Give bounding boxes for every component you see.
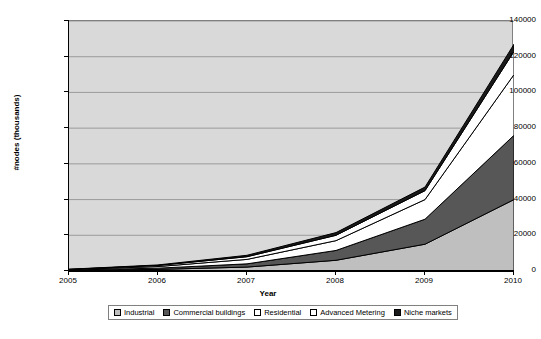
legend-label: Advanced Metering <box>320 308 385 317</box>
x-tick-mark <box>335 272 336 275</box>
y-tick-label: 140000 <box>474 16 536 24</box>
y-tick-mark <box>64 20 68 21</box>
y-tick-mark <box>64 91 68 92</box>
series-areas <box>69 44 514 271</box>
x-tick-label: 2010 <box>483 276 541 285</box>
legend-item[interactable]: Residential <box>254 308 301 317</box>
legend-swatch-icon <box>310 309 317 316</box>
plot-area <box>68 20 513 270</box>
x-axis-title: Year <box>0 289 536 298</box>
legend-item[interactable]: Commercial buildings <box>163 308 245 317</box>
y-tick-label: 60000 <box>474 159 536 167</box>
y-tick-mark <box>64 163 68 164</box>
x-tick-label: 2009 <box>394 276 454 285</box>
x-tick-mark <box>246 272 247 275</box>
legend-swatch-icon <box>114 309 121 316</box>
y-tick-label: 120000 <box>474 52 536 60</box>
y-axis-line <box>68 20 69 271</box>
y-tick-mark <box>64 127 68 128</box>
x-tick-mark <box>424 272 425 275</box>
chart-legend: IndustrialCommercial buildingsResidentia… <box>108 305 458 320</box>
y-tick-label: 100000 <box>474 87 536 95</box>
x-tick-mark <box>68 272 69 275</box>
legend-swatch-icon <box>254 309 261 316</box>
legend-item[interactable]: Niche markets <box>394 308 452 317</box>
y-tick-label: 40000 <box>474 195 536 203</box>
legend-swatch-icon <box>163 309 170 316</box>
y-tick-mark <box>64 234 68 235</box>
x-tick-label: 2005 <box>38 276 98 285</box>
legend-item[interactable]: Advanced Metering <box>310 308 385 317</box>
y-tick-label: 80000 <box>474 123 536 131</box>
y-tick-mark <box>64 56 68 57</box>
legend-label: Residential <box>264 308 301 317</box>
x-axis-line <box>68 270 514 272</box>
x-tick-label: 2007 <box>216 276 276 285</box>
legend-label: Niche markets <box>404 308 452 317</box>
y-tick-label: 20000 <box>474 230 536 238</box>
legend-label: Industrial <box>124 308 154 317</box>
y-tick-mark <box>64 199 68 200</box>
y-axis-title: #nodes (thousands) <box>12 78 21 188</box>
plot-svg <box>69 21 514 271</box>
x-tick-mark <box>157 272 158 275</box>
legend-label: Commercial buildings <box>173 308 245 317</box>
x-tick-label: 2008 <box>305 276 365 285</box>
x-tick-mark <box>513 272 514 275</box>
legend-swatch-icon <box>394 309 401 316</box>
legend-item[interactable]: Industrial <box>114 308 154 317</box>
x-tick-label: 2006 <box>127 276 187 285</box>
